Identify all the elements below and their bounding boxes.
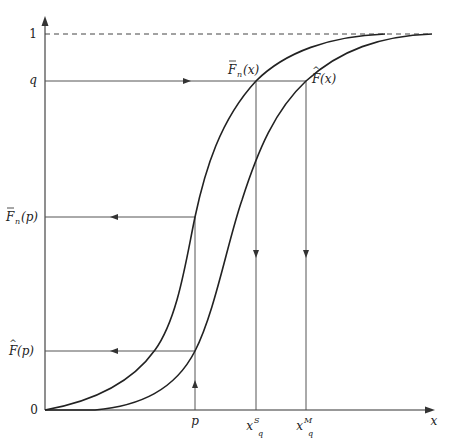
q-guide-arrow-icon [183, 78, 191, 84]
svg-text:M: M [303, 416, 313, 425]
x-label-xqS: x S q [246, 416, 263, 438]
x-axis [45, 407, 435, 414]
fbar-p-arrow-icon [110, 214, 118, 220]
x-axis-arrow-icon [425, 407, 435, 414]
svg-text:(p): (p) [17, 344, 34, 358]
p-guide-arrow-icon [192, 380, 198, 388]
svg-text:x: x [246, 419, 253, 433]
svg-text:n: n [15, 217, 20, 226]
y-label-q: q [29, 73, 37, 87]
curve-label-fhat-x: ^ F (x) [311, 65, 336, 86]
fhat-curve [45, 34, 432, 410]
svg-text:F: F [5, 210, 15, 224]
y-label-zero: 0 [30, 403, 38, 417]
svg-text:(x): (x) [320, 72, 336, 86]
x-label-xqM: x M q [296, 416, 313, 438]
svg-text:q: q [258, 429, 263, 438]
y-label-one: 1 [29, 27, 37, 41]
svg-text:F: F [227, 63, 237, 77]
svg-text:(x): (x) [243, 63, 259, 77]
y-axis-arrow-icon [42, 16, 49, 26]
quantile-diagram: 1 q 0 F n (p) ^ F (p) F n (x) ^ F (x) p … [0, 0, 453, 445]
svg-text:x: x [296, 419, 303, 433]
xqM-guide-arrow-icon [303, 250, 309, 258]
x-axis-label: x [431, 414, 438, 428]
svg-text:(p): (p) [21, 210, 38, 224]
curve-label-fbar-n-x: F n (x) [227, 61, 259, 79]
svg-text:n: n [237, 70, 242, 79]
svg-text:q: q [308, 429, 313, 438]
y-label-fhat-p: ^ F (p) [8, 338, 34, 358]
svg-text:S: S [254, 416, 260, 425]
xqS-guide-arrow-icon [253, 250, 259, 258]
fbar-n-curve [45, 34, 385, 410]
fhat-p-arrow-icon [110, 348, 118, 354]
y-label-fbar-n-p: F n (p) [5, 208, 38, 226]
x-label-p: p [191, 414, 199, 428]
